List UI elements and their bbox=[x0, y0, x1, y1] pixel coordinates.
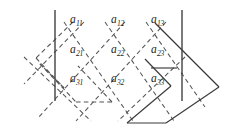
matrix-entry-a31: a31 bbox=[70, 73, 83, 85]
matrix-entry-a12-sub: 12 bbox=[117, 19, 124, 28]
matrix-entry-a21-sub: 21 bbox=[76, 49, 83, 58]
matrix-entry-a32-base: a bbox=[111, 72, 117, 84]
matrix-entry-a21-base: a bbox=[70, 43, 76, 55]
matrix-entry-a21: a21 bbox=[70, 44, 83, 56]
lattice-line-dl-3 bbox=[38, 22, 125, 118]
matrix-entry-a12: a12 bbox=[111, 14, 124, 26]
solid-par-right-edge bbox=[166, 87, 219, 123]
matrix-entry-a11-sub: 11 bbox=[76, 19, 83, 28]
matrix-entry-a32: a32 bbox=[111, 73, 124, 85]
matrix-entry-a33-sub: 33 bbox=[157, 78, 164, 87]
matrix-entry-a11: a11 bbox=[70, 14, 82, 26]
dashed-par-right-edge bbox=[78, 66, 112, 102]
lattice-line-dr-1 bbox=[24, 57, 91, 121]
dashed-parallelogram bbox=[36, 22, 112, 102]
dashed-par-left-edge bbox=[36, 58, 64, 88]
matrix-entry-a13-base: a bbox=[151, 13, 157, 25]
matrix-entry-a32-sub: 32 bbox=[117, 78, 124, 87]
matrix-entry-a13-sub: 13 bbox=[157, 19, 164, 28]
matrix-lattice-figure: a11 a12 a13 a21 a22 a23 a31 a32 a33 bbox=[0, 0, 230, 128]
lattice-line-dl-1 bbox=[118, 57, 185, 121]
matrix-entry-a33-base: a bbox=[151, 72, 157, 84]
matrix-entry-a12-base: a bbox=[111, 13, 117, 25]
matrix-entry-a23-base: a bbox=[151, 43, 157, 55]
matrix-entry-a22-base: a bbox=[111, 43, 117, 55]
matrix-entry-a22: a22 bbox=[111, 44, 124, 56]
matrix-entry-a23-sub: 23 bbox=[157, 49, 164, 58]
matrix-entry-a23: a23 bbox=[151, 44, 164, 56]
matrix-entry-a22-sub: 22 bbox=[117, 49, 124, 58]
matrix-entry-a11-base: a bbox=[70, 13, 76, 25]
matrix-entry-a31-base: a bbox=[70, 72, 76, 84]
solid-par-top-edge bbox=[155, 23, 219, 87]
matrix-entry-a13: a13 bbox=[151, 14, 164, 26]
matrix-entry-a31-sub: 31 bbox=[76, 78, 83, 87]
matrix-entry-a33: a33 bbox=[151, 73, 164, 85]
